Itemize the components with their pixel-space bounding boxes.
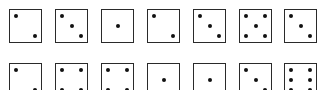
die-face-1 [101,9,134,43]
pip-dot-icon [70,24,74,28]
pip-dot-icon [14,68,18,72]
pip-dot-icon [254,78,258,82]
die-face-6 [284,63,317,90]
pip-dot-icon [308,88,312,90]
pip-dot-icon [106,68,110,72]
pip-dot-icon [60,14,64,18]
pip-dot-icon [208,78,212,82]
pip-dot-icon [162,78,166,82]
die-face-4 [55,63,88,90]
die-face-5 [239,9,272,43]
pip-dot-icon [208,24,212,28]
pip-dot-icon [116,24,120,28]
die-face-3 [55,9,88,43]
pip-dot-icon [263,88,267,90]
pip-dot-icon [79,34,83,38]
pip-dot-icon [60,88,64,90]
pip-dot-icon [152,14,156,18]
pip-dot-icon [263,34,267,38]
pip-dot-icon [106,88,110,90]
pip-dot-icon [244,34,248,38]
pip-dot-icon [79,88,83,90]
die-face-1 [147,63,180,90]
die-face-3 [193,9,226,43]
pip-dot-icon [125,68,129,72]
pip-dot-icon [289,88,293,90]
die-face-3 [284,9,317,43]
pip-dot-icon [289,78,293,82]
die-face-2 [147,9,180,43]
die-face-2 [9,9,42,43]
pip-dot-icon [79,68,83,72]
pip-dot-icon [217,34,221,38]
pip-dot-icon [14,14,18,18]
pip-dot-icon [299,24,303,28]
pip-dot-icon [33,88,37,90]
pip-dot-icon [244,68,248,72]
pip-dot-icon [125,88,129,90]
pip-dot-icon [263,14,267,18]
pip-dot-icon [33,34,37,38]
die-face-3 [239,63,272,90]
pip-dot-icon [308,34,312,38]
pip-dot-icon [289,14,293,18]
pip-dot-icon [60,68,64,72]
pip-dot-icon [308,68,312,72]
pip-dot-icon [254,24,258,28]
pip-dot-icon [244,14,248,18]
pip-dot-icon [308,78,312,82]
die-face-4 [101,63,134,90]
die-face-2 [9,63,42,90]
die-face-1 [193,63,226,90]
pip-dot-icon [289,68,293,72]
pip-dot-icon [198,14,202,18]
pip-dot-icon [171,34,175,38]
